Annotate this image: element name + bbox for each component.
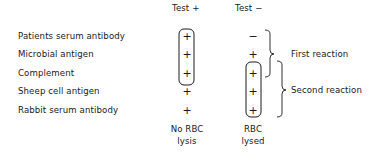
second-reaction-label: Second reaction: [291, 85, 362, 95]
outcome-test-positive-line2: lysis: [166, 136, 208, 146]
outcome-test-negative-line1: RBC: [233, 124, 273, 134]
second-reaction-brace: [277, 61, 286, 117]
first-reaction-label: First reaction: [291, 49, 348, 59]
test-positive-group-box: [179, 29, 194, 85]
outcome-test-positive-line1: No RBC: [166, 124, 208, 134]
first-reaction-brace: [265, 30, 274, 77]
test-negative-group-box: [246, 62, 261, 117]
outcome-test-negative-line2: lysed: [233, 136, 273, 146]
